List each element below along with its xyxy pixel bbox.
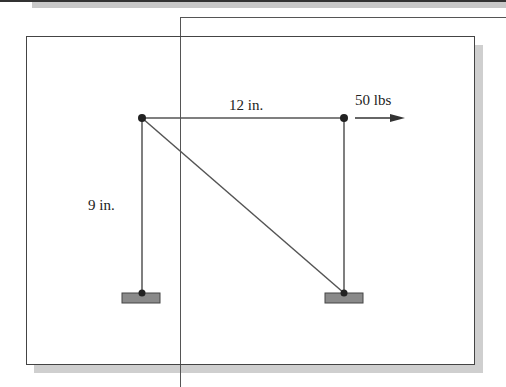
height-label: 9 in.: [88, 197, 115, 214]
joint-bottom-right: [341, 290, 348, 297]
members: [142, 118, 344, 293]
load-label: 50 lbs: [355, 92, 391, 109]
joint-top-right: [340, 114, 348, 122]
joint-bottom-left: [139, 290, 146, 297]
truss-diagram: [0, 0, 506, 387]
diagonal-member: [142, 118, 344, 293]
load-arrow-icon: [355, 114, 405, 122]
joint-top-left: [138, 114, 146, 122]
top-span-label: 12 in.: [229, 97, 263, 114]
